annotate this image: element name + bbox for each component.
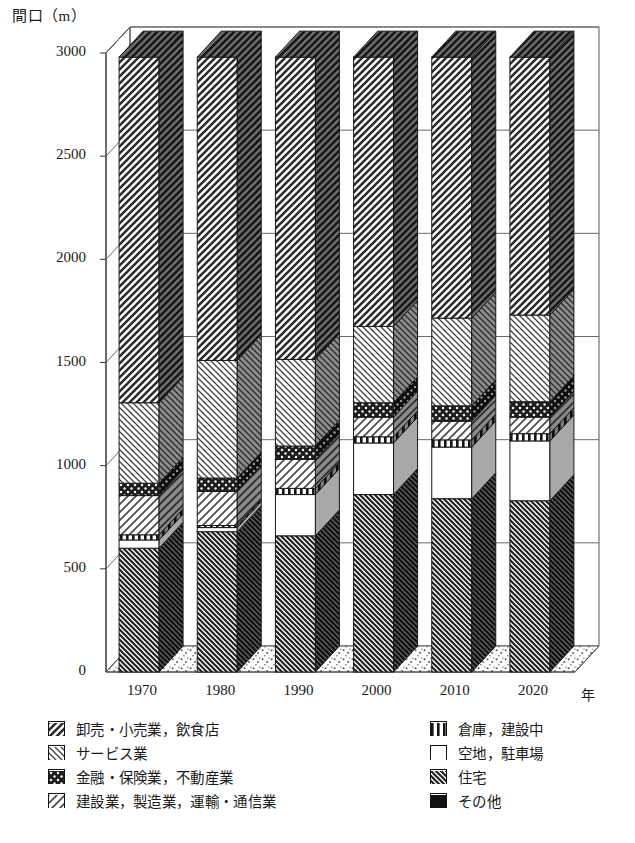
- x-tick-label-1980: 1980: [185, 682, 255, 699]
- bar-segment-warehouse-underconstruction: [432, 440, 472, 447]
- bar-segment-side-wholesale-retail-food: [550, 31, 574, 315]
- bar-segment-housing: [119, 548, 159, 672]
- bar-2000: [354, 31, 418, 672]
- bar-segment-housing: [354, 495, 394, 672]
- bar-segment-wholesale-retail-food: [275, 57, 315, 359]
- bar-segment-construction-manufacturing-transport: [275, 459, 315, 488]
- chart-root: 間口（m）: [0, 0, 635, 843]
- legend-label-other: その他: [458, 790, 501, 811]
- bar-segment-finance-insurance-realestate: [432, 406, 472, 421]
- bar-segment-housing: [197, 532, 237, 672]
- bar-segment-service: [354, 326, 394, 402]
- legend-swatch-wholesale-retail-food-icon: [48, 721, 65, 736]
- legend-item-finance-insurance-realestate[interactable]: 金融・保険業，不動産業: [48, 764, 276, 788]
- legend-label-vacant-parking: 空地，駐車場: [458, 742, 544, 763]
- bar-segment-finance-insurance-realestate: [197, 478, 237, 491]
- bar-segment-housing: [275, 536, 315, 672]
- plot-area: 300025002000150010005000 197019801990200…: [0, 0, 635, 700]
- bar-segment-side-housing: [394, 469, 418, 672]
- bar-segment-side-wholesale-retail-food: [472, 31, 496, 318]
- y-tick-label-3000: 3000: [16, 43, 86, 60]
- legend-swatch-warehouse-underconstruction-icon: [430, 721, 447, 736]
- bar-1970: [119, 31, 183, 672]
- bar-segment-service: [119, 403, 159, 483]
- bar-1990: [275, 31, 339, 672]
- bar-segment-finance-insurance-realestate: [275, 446, 315, 459]
- legend-item-other[interactable]: その他: [430, 788, 544, 812]
- legend-label-service: サービス業: [76, 742, 148, 763]
- y-tick-label-2000: 2000: [16, 249, 86, 266]
- legend-label-warehouse-underconstruction: 倉庫，建設中: [458, 718, 544, 739]
- bar-segment-construction-manufacturing-transport: [119, 496, 159, 535]
- y-tick-label-2500: 2500: [16, 146, 86, 163]
- x-tick-label-2020: 2020: [498, 682, 568, 699]
- x-axis-unit: 年: [581, 684, 595, 704]
- bar-segment-vacant-parking: [510, 441, 550, 501]
- legend-item-construction-manufacturing-transport[interactable]: 建設業，製造業，運輸・通信業: [48, 788, 276, 812]
- bar-segment-side-wholesale-retail-food: [159, 31, 183, 403]
- legend-item-housing[interactable]: 住宅: [430, 764, 544, 788]
- legend: 卸売・小売業，飲食店サービス業金融・保険業，不動産業建設業，製造業，運輸・通信業…: [0, 716, 635, 828]
- bar-segment-construction-manufacturing-transport: [432, 421, 472, 440]
- bar-segment-construction-manufacturing-transport: [197, 491, 237, 525]
- bar-segment-wholesale-retail-food: [510, 57, 550, 315]
- legend-item-service[interactable]: サービス業: [48, 740, 276, 764]
- legend-swatch-service-icon: [48, 745, 65, 760]
- legend-swatch-housing-icon: [430, 769, 447, 784]
- bar-segment-side-wholesale-retail-food: [237, 31, 261, 360]
- bar-segment-wholesale-retail-food: [354, 57, 394, 326]
- bar-segment-housing: [432, 499, 472, 672]
- bar-segment-wholesale-retail-food: [197, 57, 237, 360]
- legend-item-wholesale-retail-food[interactable]: 卸売・小売業，飲食店: [48, 716, 276, 740]
- bar-segment-vacant-parking: [197, 528, 237, 532]
- legend-column-right: 倉庫，建設中空地，駐車場住宅その他: [430, 716, 544, 812]
- bar-segment-vacant-parking: [354, 443, 394, 495]
- bar-segment-wholesale-retail-food: [119, 57, 159, 403]
- bar-segment-service: [510, 315, 550, 402]
- bar-segment-side-housing: [550, 475, 574, 672]
- x-tick-label-1970: 1970: [107, 682, 177, 699]
- bar-segment-wholesale-retail-food: [432, 57, 472, 318]
- bar-segment-vacant-parking: [432, 447, 472, 499]
- bar-segment-finance-insurance-realestate: [354, 403, 394, 417]
- legend-item-vacant-parking[interactable]: 空地，駐車場: [430, 740, 544, 764]
- y-tick-label-0: 0: [16, 662, 86, 679]
- legend-swatch-vacant-parking-icon: [430, 745, 447, 760]
- bar-1980: [197, 31, 261, 672]
- bar-2020: [510, 31, 574, 672]
- bar-segment-warehouse-underconstruction: [119, 535, 159, 540]
- bar-segment-construction-manufacturing-transport: [510, 417, 550, 434]
- legend-swatch-construction-manufacturing-transport-icon: [48, 793, 65, 808]
- bar-2010: [432, 31, 496, 672]
- bar-segment-side-housing: [472, 473, 496, 672]
- bar-segment-vacant-parking: [275, 495, 315, 536]
- bar-segment-side-housing: [315, 510, 339, 672]
- bar-segment-finance-insurance-realestate: [119, 483, 159, 495]
- bar-segment-warehouse-underconstruction: [510, 434, 550, 441]
- bar-segment-side-wholesale-retail-food: [394, 31, 418, 326]
- bar-segment-finance-insurance-realestate: [510, 402, 550, 417]
- bar-segment-warehouse-underconstruction: [354, 437, 394, 443]
- y-tick-label-500: 500: [16, 559, 86, 576]
- bar-segment-housing: [510, 501, 550, 672]
- y-tick-label-1500: 1500: [16, 353, 86, 370]
- legend-label-construction-manufacturing-transport: 建設業，製造業，運輸・通信業: [76, 790, 276, 811]
- bar-segment-side-wholesale-retail-food: [315, 31, 339, 359]
- bar-segment-side-housing: [237, 506, 261, 672]
- bar-segment-warehouse-underconstruction: [275, 488, 315, 494]
- x-tick-label-1990: 1990: [263, 682, 333, 699]
- y-tick-label-1000: 1000: [16, 456, 86, 473]
- bar-segment-service: [275, 359, 315, 446]
- legend-item-warehouse-underconstruction[interactable]: 倉庫，建設中: [430, 716, 544, 740]
- legend-label-finance-insurance-realestate: 金融・保険業，不動産業: [76, 766, 233, 787]
- bar-segment-service: [432, 318, 472, 406]
- legend-column-left: 卸売・小売業，飲食店サービス業金融・保険業，不動産業建設業，製造業，運輸・通信業: [48, 716, 276, 812]
- x-tick-label-2000: 2000: [342, 682, 412, 699]
- bar-segment-construction-manufacturing-transport: [354, 417, 394, 437]
- legend-label-wholesale-retail-food: 卸売・小売業，飲食店: [76, 718, 219, 739]
- bar-segment-service: [197, 360, 237, 478]
- bar-segment-vacant-parking: [119, 540, 159, 548]
- legend-swatch-other-icon: [430, 793, 447, 808]
- legend-label-housing: 住宅: [458, 766, 487, 787]
- legend-swatch-finance-insurance-realestate-icon: [48, 769, 65, 784]
